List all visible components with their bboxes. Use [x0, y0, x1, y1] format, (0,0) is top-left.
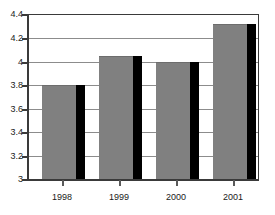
bar-shadow [133, 56, 142, 179]
y-tick-label: 3.8 [1, 81, 23, 90]
y-axis-labels: 4.4 4.2 4 3.8 3.6 3.4 3.2 3 [0, 0, 23, 215]
bar-1999[interactable] [99, 56, 142, 179]
x-tick-label-2001: 2001 [213, 192, 253, 202]
y-tick-label: 4.2 [1, 34, 23, 43]
bar-shadow [190, 62, 199, 179]
y-tick-label: 4 [1, 58, 23, 67]
bar-shadow [247, 24, 256, 179]
y-tick-label: 3.4 [1, 128, 23, 137]
x-tick-label-1998: 1998 [42, 192, 82, 202]
plot-area [28, 14, 259, 180]
y-tick-label: 3.6 [1, 105, 23, 114]
bar-2000[interactable] [156, 62, 199, 179]
x-axis-tick [119, 180, 121, 186]
x-axis-tick [62, 180, 64, 186]
y-tick-label: 3 [1, 175, 23, 184]
x-axis-tick [176, 180, 178, 186]
y-tick-label: 3.2 [1, 152, 23, 161]
bar-chart: 4.4 4.2 4 3.8 3.6 3.4 3.2 3 [0, 0, 275, 215]
x-tick-label-2000: 2000 [156, 192, 196, 202]
bars-layer [29, 15, 258, 179]
x-axis-tick [233, 180, 235, 186]
bar-1998[interactable] [42, 85, 85, 179]
y-axis-line [27, 14, 29, 180]
bar-shadow [76, 85, 85, 179]
bar-2001[interactable] [213, 24, 256, 179]
y-tick-label: 4.4 [1, 10, 23, 19]
x-tick-label-1999: 1999 [99, 192, 139, 202]
